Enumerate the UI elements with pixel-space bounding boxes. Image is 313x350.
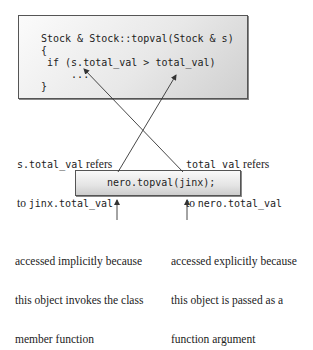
left-caption-line3: member function xyxy=(15,333,143,346)
right-caption-line2: this object is passed as a xyxy=(171,294,297,307)
right-caption-line3: function argument xyxy=(171,333,297,346)
left-caption-line2: this object invokes the class xyxy=(15,294,143,307)
arrow-nero-to-total-val xyxy=(118,75,176,172)
arrow-jinx-to-s xyxy=(84,69,183,172)
